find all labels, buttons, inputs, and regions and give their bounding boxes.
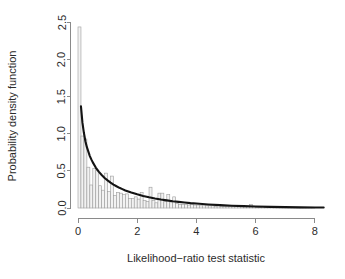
- y-axis: 0.00.51.01.52.02.5: [56, 15, 71, 216]
- x-axis-tick-label: 8: [312, 225, 318, 237]
- histogram-bar: [196, 205, 199, 208]
- histogram-bar: [211, 206, 214, 208]
- histogram-bar: [182, 204, 185, 208]
- histogram-bar: [158, 193, 161, 208]
- histogram-bar: [179, 204, 182, 208]
- histogram-bar: [99, 186, 102, 208]
- y-axis-tick-label: 0.5: [56, 163, 68, 178]
- histogram-bar: [90, 185, 93, 208]
- y-axis-tick-label: 2.5: [56, 15, 68, 30]
- x-axis-tick-label: 2: [134, 225, 140, 237]
- histogram-bar: [122, 195, 125, 208]
- x-axis-tick-label: 0: [75, 225, 81, 237]
- x-axis-title: Likelihood−ratio test statistic: [127, 252, 265, 264]
- y-axis-tick-label: 2.0: [56, 52, 68, 67]
- histogram-bar: [185, 204, 188, 208]
- histogram-bar: [119, 193, 122, 208]
- x-axis: 02468: [75, 219, 318, 237]
- histogram-bar: [143, 201, 146, 208]
- histogram-bar: [78, 27, 81, 208]
- histogram-bar: [111, 176, 114, 208]
- histogram-bar: [137, 199, 140, 208]
- histogram-bars: [78, 27, 315, 208]
- histogram-bar: [199, 206, 202, 208]
- histogram-bar: [108, 192, 111, 208]
- histogram-bar: [131, 198, 134, 208]
- histogram-bar: [214, 207, 217, 208]
- histogram-bar: [205, 206, 208, 208]
- histogram-bar: [146, 201, 149, 208]
- plot-canvas: 0.00.51.01.52.02.5 02468 Likelihood−rati…: [0, 0, 345, 279]
- chart-figure: 0.00.51.01.52.02.5 02468 Likelihood−rati…: [0, 0, 345, 279]
- histogram-bar: [226, 207, 229, 208]
- histogram-bar: [176, 204, 179, 208]
- histogram-bar: [229, 207, 232, 208]
- histogram-bar: [134, 197, 137, 208]
- histogram-bar: [155, 203, 158, 208]
- histogram-bar: [152, 201, 155, 208]
- histogram-bar: [202, 205, 205, 208]
- histogram-bar: [223, 207, 226, 208]
- histogram-bar: [114, 195, 117, 208]
- y-axis-title: Probability density function: [6, 51, 18, 182]
- histogram-bar: [220, 207, 223, 208]
- histogram-bar: [208, 206, 211, 208]
- histogram-bar: [128, 198, 131, 208]
- histogram-bar: [81, 136, 84, 208]
- histogram-bar: [84, 139, 87, 208]
- histogram-bar: [96, 170, 99, 208]
- y-axis-tick-label: 0.0: [56, 200, 68, 215]
- histogram-bar: [102, 190, 105, 208]
- histogram-bar: [188, 205, 191, 208]
- histogram-bar: [193, 205, 196, 208]
- histogram-bar: [116, 192, 119, 208]
- histogram-bar: [164, 201, 167, 208]
- y-axis-tick-label: 1.5: [56, 89, 68, 104]
- histogram-bar: [170, 202, 173, 208]
- histogram-bar: [190, 204, 193, 208]
- histogram-bar: [125, 194, 128, 208]
- histogram-bar: [87, 167, 90, 208]
- histogram-bar: [93, 169, 96, 208]
- x-axis-tick-label: 4: [193, 225, 199, 237]
- y-axis-tick-label: 1.0: [56, 126, 68, 141]
- x-axis-tick-label: 6: [253, 225, 259, 237]
